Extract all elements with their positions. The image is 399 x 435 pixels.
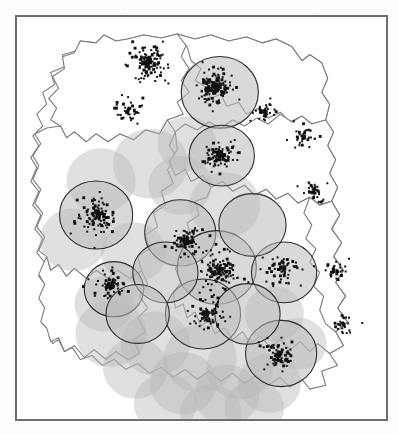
observation-point: [139, 51, 141, 53]
observation-point: [159, 57, 161, 59]
observation-point: [291, 340, 294, 343]
observation-point: [94, 295, 96, 297]
observation-point: [211, 171, 213, 173]
observation-point: [283, 343, 285, 345]
observation-point: [349, 331, 351, 333]
observation-point: [193, 320, 195, 322]
observation-point: [176, 239, 178, 241]
observation-point: [219, 271, 221, 273]
observation-point: [299, 142, 301, 144]
observation-point: [210, 323, 212, 325]
observation-point: [348, 329, 350, 331]
observation-point: [361, 322, 363, 324]
observation-point: [141, 97, 144, 100]
observation-point: [152, 68, 155, 71]
observation-point: [333, 265, 335, 267]
observation-point: [341, 327, 343, 329]
observation-point: [226, 91, 228, 93]
observation-point: [286, 365, 288, 367]
observation-point: [213, 81, 215, 83]
observation-point: [296, 139, 298, 141]
observation-point: [279, 274, 282, 277]
observation-point: [219, 315, 221, 317]
observation-point: [83, 206, 86, 209]
observation-point: [339, 264, 341, 266]
observation-point: [207, 85, 210, 88]
observation-point: [113, 218, 115, 220]
observation-point: [194, 315, 196, 317]
observation-point: [130, 118, 132, 120]
observation-point: [209, 275, 212, 278]
observation-point: [232, 159, 234, 161]
observation-point: [159, 66, 161, 68]
observation-point: [313, 265, 315, 267]
observation-point: [274, 355, 276, 357]
observation-point: [199, 298, 202, 301]
observation-point: [266, 113, 268, 115]
observation-point: [188, 246, 190, 248]
observation-point: [210, 90, 212, 92]
observation-point: [139, 67, 141, 69]
observation-point: [320, 201, 323, 204]
observation-point: [78, 217, 80, 219]
observation-point: [287, 277, 289, 279]
observation-point: [112, 279, 115, 282]
observation-point: [171, 246, 174, 249]
observation-point: [223, 248, 226, 251]
observation-point: [209, 163, 211, 165]
observation-point: [259, 109, 262, 112]
observation-point: [87, 278, 89, 280]
observation-point: [156, 63, 159, 66]
observation-point: [201, 228, 204, 231]
observation-point: [203, 98, 205, 100]
observation-point: [205, 250, 207, 252]
observation-point: [298, 144, 300, 146]
observation-point: [252, 112, 254, 114]
observation-point: [269, 112, 271, 114]
observation-point: [233, 277, 235, 279]
observation-point: [202, 79, 205, 82]
observation-point: [208, 265, 210, 267]
observation-point: [109, 288, 111, 290]
observation-point: [218, 251, 220, 253]
observation-point: [223, 91, 226, 94]
observation-point: [207, 161, 209, 163]
observation-point: [212, 110, 214, 112]
observation-point: [114, 279, 116, 281]
observation-point: [222, 271, 224, 273]
observation-point: [121, 94, 123, 96]
observation-point: [131, 56, 134, 59]
observation-point: [335, 273, 338, 276]
observation-point: [94, 292, 97, 295]
observation-point: [209, 262, 211, 264]
observation-point: [258, 341, 260, 343]
observation-point: [210, 255, 212, 257]
observation-point: [262, 111, 265, 114]
observation-point: [229, 81, 231, 83]
observation-point: [287, 360, 290, 363]
observation-point: [115, 283, 117, 285]
observation-point: [223, 84, 225, 86]
observation-point: [201, 260, 203, 262]
observation-point: [147, 75, 149, 77]
observation-point: [297, 185, 299, 187]
observation-point: [155, 47, 158, 50]
observation-point: [221, 268, 223, 270]
observation-point: [102, 212, 104, 214]
observation-point: [209, 321, 211, 323]
observation-point: [318, 193, 320, 195]
observation-point: [281, 271, 283, 273]
observation-point: [212, 319, 214, 321]
observation-point: [145, 65, 148, 68]
observation-point: [118, 291, 121, 294]
observation-point: [209, 289, 211, 291]
observation-point: [144, 47, 146, 49]
observation-point: [247, 281, 249, 283]
observation-point: [200, 309, 202, 311]
observation-point: [211, 253, 213, 255]
observation-point: [207, 79, 210, 82]
observation-point: [308, 182, 310, 184]
observation-point: [205, 308, 207, 310]
observation-point: [227, 248, 229, 250]
observation-point: [212, 66, 215, 69]
